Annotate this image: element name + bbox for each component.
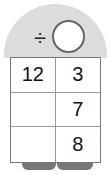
- answer-circle[interactable]: [52, 20, 85, 53]
- number-table: 12 3 7 8: [10, 57, 101, 163]
- bottom-tab-right: [57, 162, 93, 170]
- table-cell: 8: [56, 127, 101, 162]
- table-cell[interactable]: [11, 127, 56, 162]
- divide-icon: ÷: [28, 24, 52, 52]
- bottom-tab-left: [22, 162, 56, 170]
- table-cell: 3: [56, 58, 101, 93]
- table-cell: 12: [11, 58, 56, 93]
- table-cell[interactable]: [11, 93, 56, 128]
- table-cell: 7: [56, 93, 101, 128]
